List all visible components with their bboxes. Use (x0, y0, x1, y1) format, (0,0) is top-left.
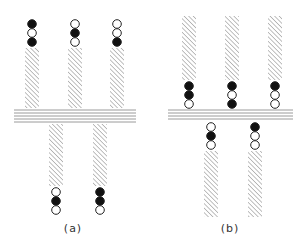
open-circle (96, 206, 105, 215)
open-circle (52, 188, 61, 197)
panel-a (14, 20, 136, 215)
hatched-bar (25, 48, 39, 108)
open-circle (71, 20, 80, 29)
filled-circle (185, 91, 194, 100)
diagram-canvas (0, 0, 306, 245)
filled-circle (28, 38, 37, 47)
open-circle (71, 38, 80, 47)
open-circle (52, 206, 61, 215)
hatched-bar (93, 124, 107, 186)
open-circle (113, 20, 122, 29)
hatched-bar (182, 16, 196, 80)
open-circle (271, 100, 280, 109)
filled-circle (271, 82, 280, 91)
hatched-bar (49, 124, 63, 186)
hatched-bar (204, 151, 218, 217)
membrane-lines (168, 110, 293, 119)
chain-a-4 (49, 124, 63, 214)
filled-circle (96, 197, 105, 206)
membrane-lines (14, 110, 136, 122)
filled-circle (113, 38, 122, 47)
filled-circle (28, 20, 37, 29)
open-circle (207, 123, 216, 132)
chain-b-2 (225, 16, 239, 108)
open-circle (251, 132, 260, 141)
hatched-bar (225, 16, 239, 80)
filled-circle (96, 188, 105, 197)
filled-circle (52, 197, 61, 206)
chain-a-3 (110, 20, 124, 108)
filled-circle (185, 82, 194, 91)
panel-b (168, 16, 293, 217)
chain-a-1 (25, 20, 39, 108)
hatched-bar (110, 48, 124, 108)
open-circle (28, 29, 37, 38)
filled-circle (207, 132, 216, 141)
filled-circle (251, 123, 260, 132)
hatched-bar (68, 48, 82, 108)
open-circle (271, 91, 280, 100)
chain-a-5 (93, 124, 107, 214)
chain-b-5 (248, 123, 262, 217)
open-circle (113, 29, 122, 38)
hatched-bar (248, 151, 262, 217)
open-circle (207, 141, 216, 150)
filled-circle (71, 29, 80, 38)
chain-b-4 (204, 123, 218, 217)
open-circle (185, 100, 194, 109)
panel-a-label: (a) (64, 222, 82, 235)
chain-b-3 (268, 16, 282, 108)
filled-circle (228, 82, 237, 91)
chain-b-1 (182, 16, 196, 108)
open-circle (228, 91, 237, 100)
hatched-bar (268, 16, 282, 80)
panel-b-label: (b) (221, 222, 240, 235)
filled-circle (228, 100, 237, 109)
open-circle (251, 141, 260, 150)
chain-a-2 (68, 20, 82, 108)
